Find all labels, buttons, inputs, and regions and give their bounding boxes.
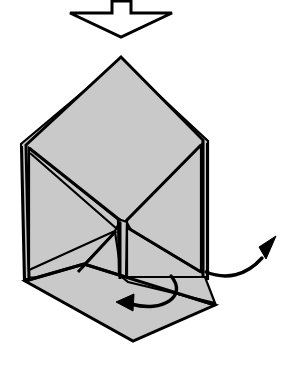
origami-diagram [0,0,287,365]
origami-canvas [0,0,287,365]
swing-out-arrow [206,236,276,276]
swing-out-arrow-path [206,258,262,276]
swing-out-arrow-head [259,236,276,259]
flatten-push-arrow [70,1,172,37]
